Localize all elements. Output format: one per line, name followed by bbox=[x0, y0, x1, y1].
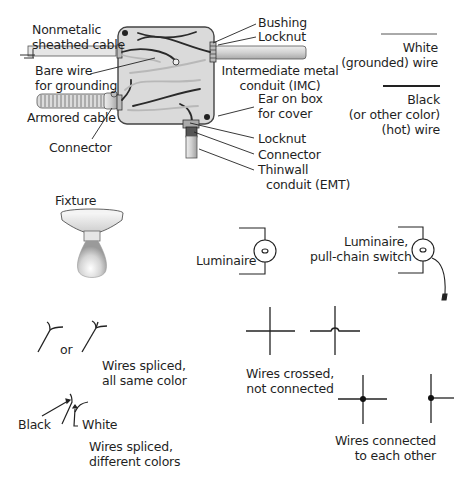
label-locknut-top: Locknut bbox=[258, 29, 306, 44]
label-luminaire-pull-line1: Luminaire, bbox=[310, 234, 408, 249]
label-splice-diff: Wires spliced, different colors bbox=[89, 439, 180, 469]
label-ear-line2: for cover bbox=[258, 106, 323, 121]
legend-black-line2: (or other color) bbox=[340, 107, 440, 122]
label-luminaire-pull: Luminaire, pull-chain switch bbox=[310, 234, 408, 264]
armored-cable-icon bbox=[37, 91, 118, 109]
label-connected-line1: Wires connected bbox=[320, 433, 436, 448]
label-white: White bbox=[82, 417, 117, 432]
label-splice-diff-line2: different colors bbox=[89, 454, 180, 469]
label-crossed-line2: not connected bbox=[245, 381, 335, 396]
label-bushing: Bushing bbox=[258, 15, 307, 30]
label-splice-same: Wires spliced, all same color bbox=[102, 358, 187, 388]
label-imc: Intermediate metal conduit (IMC) bbox=[220, 63, 340, 93]
legend-white-line2: (grounded) wire bbox=[340, 55, 438, 70]
label-splice-diff-line1: Wires spliced, bbox=[89, 439, 180, 454]
label-connector-bottom: Connector bbox=[258, 147, 321, 162]
label-splice-same-line1: Wires spliced, bbox=[102, 358, 187, 373]
label-nonmetallic-line1: Nonmetalic bbox=[32, 22, 125, 37]
label-locknut-bottom: Locknut bbox=[258, 131, 306, 146]
label-bare-wire: Bare wire for grounding bbox=[35, 63, 117, 93]
label-black: Black bbox=[18, 417, 51, 432]
emt-conduit-icon bbox=[186, 136, 197, 158]
legend-white: White (grounded) wire bbox=[340, 40, 438, 70]
wires-connected-icon bbox=[338, 374, 454, 424]
legend-black-line1: Black bbox=[340, 92, 440, 107]
label-bare-wire-line1: Bare wire bbox=[35, 63, 117, 78]
label-connected-line2: to each other bbox=[320, 448, 436, 463]
label-emt: Thinwall conduit (EMT) bbox=[258, 162, 350, 192]
label-imc-line1: Intermediate metal bbox=[220, 63, 340, 78]
label-crossed: Wires crossed, not connected bbox=[245, 366, 335, 396]
legend-black-line3: (hot) wire bbox=[340, 122, 440, 137]
label-luminaire: Luminaire bbox=[196, 253, 256, 268]
ground-screw-icon bbox=[173, 59, 179, 65]
label-luminaire-pull-line2: pull-chain switch bbox=[310, 249, 408, 264]
label-emt-line1: Thinwall bbox=[258, 162, 350, 177]
label-armored-cable: Armored cable bbox=[27, 110, 116, 125]
label-or: or bbox=[60, 342, 72, 357]
fixture-icon bbox=[61, 209, 123, 278]
label-connected: Wires connected to each other bbox=[320, 433, 436, 463]
label-connector-left: Connector bbox=[49, 140, 112, 155]
wires-crossed-icon bbox=[246, 306, 360, 355]
legend-black: Black (or other color) (hot) wire bbox=[340, 92, 440, 137]
label-splice-same-line2: all same color bbox=[102, 373, 187, 388]
legend-white-line1: White bbox=[340, 40, 438, 55]
connector-bottom-icon bbox=[186, 127, 197, 137]
imc-conduit-icon bbox=[214, 46, 306, 59]
label-crossed-line1: Wires crossed, bbox=[245, 366, 335, 381]
label-ear: Ear on box for cover bbox=[258, 91, 323, 121]
label-nonmetallic: Nonmetalic sheathed cable bbox=[32, 22, 125, 52]
ear-icon bbox=[204, 114, 210, 120]
label-nonmetallic-line2: sheathed cable bbox=[32, 37, 125, 52]
label-fixture: Fixture bbox=[55, 193, 96, 208]
label-ear-line1: Ear on box bbox=[258, 91, 323, 106]
wiring-diagram: Nonmetalic sheathed cable Bare wire for … bbox=[0, 0, 471, 481]
splice-same-color-icon bbox=[38, 321, 107, 352]
label-bare-wire-line2: for grounding bbox=[35, 78, 117, 93]
label-emt-line2: conduit (EMT) bbox=[258, 177, 350, 192]
